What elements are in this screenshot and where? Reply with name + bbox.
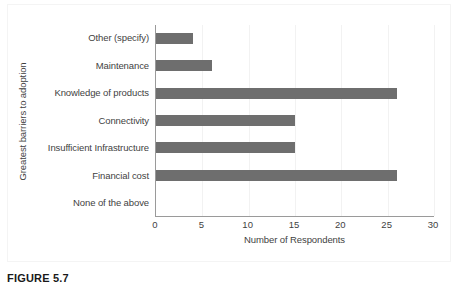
category-label: Insufficient Infrastructure: [30, 135, 154, 162]
y-axis-title-text: Greatest barriers to adoption: [17, 62, 28, 180]
bar-row: [156, 25, 434, 52]
bar-row: [156, 107, 434, 134]
bar-row: [156, 52, 434, 79]
plot-area: [155, 25, 434, 217]
bar: [156, 60, 212, 71]
category-label: None of the above: [30, 190, 154, 217]
bar-row: [156, 80, 434, 107]
x-axis-tick-label: 20: [335, 219, 346, 230]
x-axis-tick-label: 15: [289, 219, 300, 230]
category-axis-labels: Other (specify) Maintenance Knowledge of…: [30, 25, 154, 217]
bar: [156, 88, 397, 99]
x-axis-title: Number of Respondents: [155, 234, 434, 245]
bar: [156, 115, 295, 126]
x-axis-tick-label: 30: [428, 219, 439, 230]
bar: [156, 170, 397, 181]
x-axis-tick-label: 0: [152, 219, 157, 230]
bar-series: [156, 25, 434, 216]
x-axis-tick-label: 5: [199, 219, 204, 230]
figure-container: Greatest barriers to adoption Other (spe…: [0, 0, 460, 292]
bar-row: [156, 161, 434, 188]
figure-caption: FIGURE 5.7: [7, 272, 69, 284]
category-label: Financial cost: [30, 162, 154, 189]
bar: [156, 33, 193, 44]
bar-row: [156, 134, 434, 161]
category-label: Maintenance: [30, 52, 154, 79]
bar-row: [156, 189, 434, 216]
x-axis-tick-label: 10: [242, 219, 253, 230]
x-axis-ticks: 051015202530: [155, 219, 434, 233]
bar: [156, 142, 295, 153]
y-axis-title: Greatest barriers to adoption: [14, 25, 30, 217]
x-axis-tick-label: 25: [381, 219, 392, 230]
category-label: Connectivity: [30, 107, 154, 134]
category-label: Other (specify): [30, 25, 154, 52]
category-label: Knowledge of products: [30, 80, 154, 107]
